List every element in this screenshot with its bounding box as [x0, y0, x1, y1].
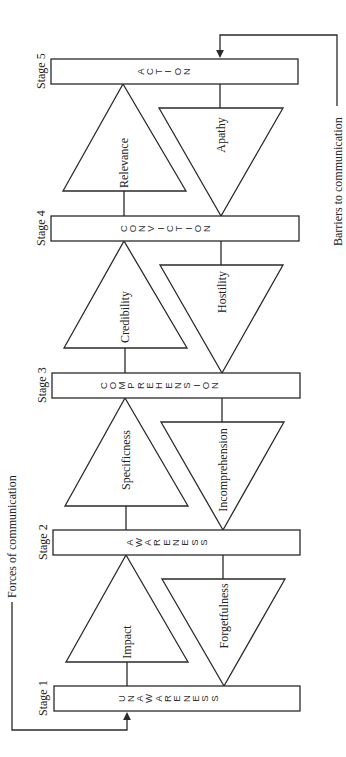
- force-label-credibility: Credibility: [118, 291, 132, 343]
- stage-name-2: AWARENESS: [124, 538, 209, 547]
- stage-label-3: Stage 3: [35, 367, 49, 403]
- stage-name-4: CONVICTION: [118, 225, 213, 233]
- barrier-label-incomprehension: Incomprehension: [216, 428, 230, 511]
- stage-name-1: UNAWARENESS: [116, 694, 220, 703]
- stage-label-2: Stage 2: [36, 524, 50, 560]
- barrier-label-hostility: Hostility: [215, 271, 229, 313]
- barrier-label-apathy: Apathy: [214, 117, 228, 152]
- stage-name-5: ACTION: [135, 68, 193, 76]
- stage-letter: N: [209, 382, 220, 389]
- stage-letter: N: [201, 225, 212, 232]
- stage-letter: S: [209, 695, 220, 701]
- stage-letter: N: [181, 68, 192, 75]
- force-label-specificness: Specificness: [119, 430, 133, 490]
- barrier-label-forgetfulness: Forgetfulness: [217, 583, 231, 648]
- stage-label-4: Stage 4: [34, 210, 48, 246]
- barriers-to-communication-label: Barriers to communication: [331, 117, 345, 246]
- force-label-impact: Impact: [120, 625, 134, 659]
- stage-label-5: Stage 5: [34, 53, 48, 89]
- forces-of-communication-label: Forces of communication: [5, 475, 19, 598]
- force-label-relevance: Relevance: [117, 138, 131, 188]
- communication-stages-diagram: Stage 5 Stage 4 Stage 3 Stage 2 Stage 1 …: [0, 0, 346, 757]
- stage-letter: S: [198, 539, 209, 545]
- stage-label-1: Stage 1: [36, 680, 50, 716]
- stage-name-3: COMPREHENSION: [98, 381, 221, 389]
